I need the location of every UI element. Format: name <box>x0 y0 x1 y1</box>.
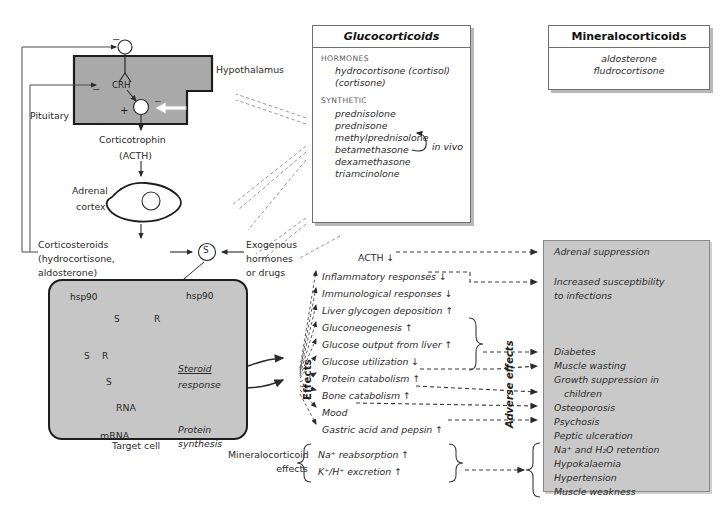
corticosteroids-line-1: Corticosteroids <box>38 239 108 251</box>
mineralocorticoid-effects-label-2: effects <box>228 463 308 475</box>
hypothalamus-label: Hypothalamus <box>216 64 284 76</box>
mineralocorticoid-brace-right <box>449 444 463 482</box>
muscle-wasting-dash <box>420 366 537 369</box>
mineralocorticoid-item-1: fludrocortisone <box>549 65 709 77</box>
acth-effect-label: ACTH ↓ <box>358 252 394 263</box>
plus-sign-acth: + <box>120 105 128 116</box>
effects-axis-label: Effects <box>302 359 313 400</box>
exogenous-line-1: Exogenous <box>246 239 297 251</box>
adverse-row-g1-1: Increased susceptibility <box>554 276 665 287</box>
effect-label-2: Liver glycogen deposition ↑ <box>322 305 453 316</box>
steroid-symbol-cytoplasm: S <box>114 314 120 324</box>
mineralocorticoid-effect-row-1: K⁺/H⁺ excretion ↑ <box>318 466 402 477</box>
adverse-row-g3-0: Na⁺ and H₂O retention <box>554 444 659 455</box>
minus-sign-pituitary: − <box>92 84 100 95</box>
glucocorticoids-header: Glucocorticoids <box>313 26 470 48</box>
adverse-row-g2-4: Osteoporosis <box>554 402 615 413</box>
adverse-row-g2-2: Growth suppression in <box>554 374 659 385</box>
mineralocorticoids-header: Mineralocorticoids <box>549 26 709 48</box>
glucocorticoids-panel: Glucocorticoids HORMONES hydrocortisone … <box>312 25 471 223</box>
exogenous-line-3: or drugs <box>246 267 285 279</box>
protein-line-2: synthesis <box>178 438 222 450</box>
cell-to-effects-arrow-1 <box>243 358 283 368</box>
adverse-row-g3-1: Hypokalaemia <box>554 458 621 469</box>
effect-label-7: Bone catabolism ↑ <box>322 390 411 401</box>
sr-receptor-label: R <box>102 351 108 361</box>
synthetic-heading: SYNTHETIC <box>321 96 470 105</box>
hormone-item-1: (cortisone) <box>335 77 470 89</box>
adverse-row-g3-2: Hypertension <box>554 472 617 483</box>
nucleus-steroid-label: S <box>106 377 112 387</box>
protein-line-1: Protein <box>178 424 211 436</box>
receptor-symbol: R <box>154 314 160 324</box>
adverse-row-g2-5: Psychosis <box>554 416 599 427</box>
target-cell-box <box>48 279 248 440</box>
acth-cell <box>134 100 149 115</box>
adrenal-label-2: cortex <box>76 201 106 213</box>
steroid-response-line-2: response <box>178 379 221 391</box>
adverse-row-g3-3: Muscle weakness <box>554 486 636 497</box>
corticosteroids-line-2: (hydrocortisone, <box>38 253 115 265</box>
sr-steroid-label: S <box>84 351 90 361</box>
adrenal-label-1: Adrenal <box>72 185 108 197</box>
effect-label-4: Glucose output from liver ↑ <box>322 339 452 350</box>
glucocorticoids-title: Glucocorticoids <box>313 30 470 43</box>
hormone-item-0: hydrocortisone (cortisol) <box>335 65 470 77</box>
mineralocorticoids-panel: Mineralocorticoids aldosterone fludrocor… <box>548 25 710 90</box>
mineralocorticoid-effects-label-1: Mineralocorticoid <box>228 449 308 461</box>
corticotrophin-label: Corticotrophin <box>99 134 166 146</box>
mineralocorticoid-effect-row-0: Na⁺ reabsorption ↑ <box>318 449 409 460</box>
adverse-row-g2-0: Diabetes <box>554 346 596 357</box>
mineralocorticoid-item-0: aldosterone <box>549 53 709 65</box>
corticosteroids-line-3: aldosterone) <box>38 267 97 279</box>
effect-label-9: Gastric acid and pepsin ↑ <box>322 424 443 435</box>
hsp90-right-label: hsp90 <box>186 291 214 301</box>
steroid-symbol-extracellular: S <box>203 245 209 255</box>
crh-label: CRH <box>112 80 130 90</box>
adverse-row-g1-0: Adrenal suppression <box>554 246 650 257</box>
mineralocorticoids-title: Mineralocorticoids <box>549 30 709 43</box>
adrenal-medulla <box>142 192 160 210</box>
exogenous-line-2: hormones <box>246 253 293 265</box>
osteoporosis-dash <box>416 386 537 392</box>
pituitary-label: Pituitary <box>30 110 69 122</box>
hormones-heading: HORMONES <box>321 54 470 63</box>
synthetic-item-0: prednisolone <box>335 108 470 120</box>
acth-paren-label: (ACTH) <box>119 150 152 162</box>
adverse-row-g1-2: to infections <box>554 290 612 301</box>
cell-to-effects-arrow-2 <box>243 380 283 388</box>
adverse-row-g2-3: children <box>564 388 602 399</box>
effect-label-6: Protein catabolism ↑ <box>322 373 420 384</box>
effect-row-9: Gastric acid and pepsin ↑ <box>322 418 443 437</box>
effects-fan <box>300 271 316 424</box>
acth-effect-row: ACTH ↓ <box>358 246 394 265</box>
effect-label-3: Gluconeogenesis ↑ <box>322 322 413 333</box>
effect-label-0: Inflammatory responses ↓ <box>322 271 447 282</box>
hsp90-left-label: hsp90 <box>70 292 98 302</box>
in-vivo-label: in vivo <box>432 141 463 153</box>
adverse-effects-axis-label: Adverse effects <box>504 340 515 428</box>
steroid-response-line-1: Steroid <box>178 363 212 375</box>
adverse-row-g2-6: Peptic ulceration <box>554 430 633 441</box>
bottom-adverse-brace <box>526 443 540 497</box>
glucose-brace <box>469 318 483 370</box>
diagram-canvas: Hypothalamus Pituitary CRH Corticotrophi… <box>0 0 726 522</box>
adverse-row-g2-1: Muscle wasting <box>554 360 626 371</box>
minus-sign-exogenous: − <box>154 96 162 106</box>
mrna-label: mRNA <box>100 430 129 442</box>
effect-label-5: Glucose utilization ↓ <box>322 356 419 367</box>
minus-sign-hypothalamus: − <box>112 34 120 45</box>
effect-label-1: Immunological responses ↓ <box>322 288 453 299</box>
effect-label-8: Mood <box>322 407 348 418</box>
rna-label: RNA <box>116 402 136 414</box>
